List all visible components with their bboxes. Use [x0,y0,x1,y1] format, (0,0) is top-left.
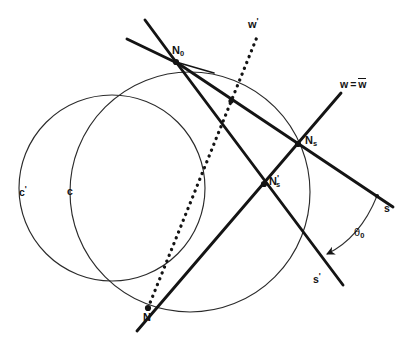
line-N-to-Ns [137,93,341,331]
label-N-zero-text: N [172,44,180,56]
label-w-prime: w' [248,17,259,30]
label-N-s-sub: s [313,139,317,148]
label-N-s-text: N [305,134,313,146]
label-c-text: c [67,185,73,197]
label-c-prime: c' [19,186,27,197]
label-w-lhs: w [340,78,348,90]
label-N-s-prime-sub: s [276,180,280,189]
point-Ns-prime [261,181,267,187]
label-N-s-prime: N's [269,174,280,188]
line-w-prime-dotted [148,37,257,308]
label-theta-0: θ0 [354,227,364,240]
label-N: N [143,312,151,323]
circle-c-prime [19,95,205,281]
label-w-prime-mark: ' [257,16,259,26]
diagram-canvas [0,0,417,345]
theta-0-arc [327,196,377,254]
label-N-zero: N0 [172,45,184,58]
geometry-figure: w' w=w N0 Ns N's N c' c s s' θ0 [0,0,417,345]
label-w-equals-wbar: w=w [340,79,366,90]
label-c-prime-mark: ' [25,185,27,194]
point-on-s-ray [375,194,379,198]
label-w-rhs: w [358,78,366,90]
label-s-prime: s' [313,273,321,284]
label-theta-sub: 0 [360,231,364,240]
label-equals-sign: = [348,78,358,90]
label-s-text: s [384,202,390,214]
label-w-bar: w [358,79,366,90]
point-Ns [295,141,301,147]
label-s-prime-mark: ' [319,272,321,281]
label-w-prime-text: w [248,18,257,30]
label-N-text: N [143,311,151,323]
label-N-zero-sub: 0 [180,49,184,58]
point-N0 [173,59,179,65]
point-on-w-equals-wbar [228,98,233,103]
label-N-s: Ns [305,135,317,148]
label-c: c [67,186,73,197]
label-s: s [384,203,390,214]
overbar [358,78,366,79]
